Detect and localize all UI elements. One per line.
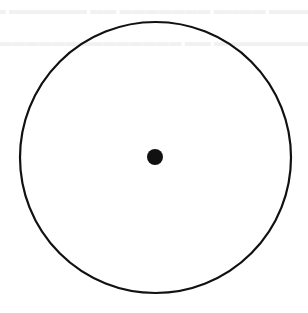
circle-diagram <box>0 0 308 313</box>
center-point <box>147 149 163 165</box>
